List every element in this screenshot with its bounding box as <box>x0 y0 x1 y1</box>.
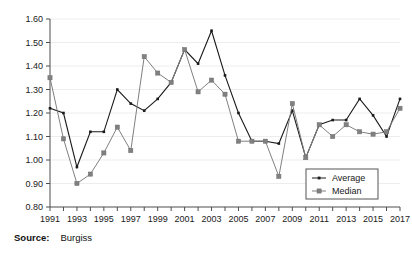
data-point <box>263 139 267 143</box>
data-point <box>278 142 281 145</box>
data-point <box>358 98 361 101</box>
x-tick-label: 2005 <box>228 214 248 224</box>
x-tick-label: 2015 <box>363 214 383 224</box>
data-point <box>223 92 227 96</box>
legend-label: Median <box>332 186 362 196</box>
data-point <box>398 106 402 110</box>
data-point <box>236 139 240 143</box>
x-tick-label: 2003 <box>202 214 222 224</box>
y-tick-label: 1.00 <box>25 155 43 165</box>
data-point <box>209 78 213 82</box>
x-tick-label: 1997 <box>121 214 141 224</box>
x-tick-label: 2017 <box>390 214 410 224</box>
data-point <box>197 62 200 65</box>
data-point <box>156 98 159 101</box>
data-point <box>129 149 133 153</box>
x-tick-label: 1991 <box>40 214 60 224</box>
x-tick-label: 1999 <box>148 214 168 224</box>
data-point <box>385 135 388 138</box>
data-point <box>345 119 348 122</box>
x-tick-label: 1993 <box>67 214 87 224</box>
y-tick-label: 1.30 <box>25 85 43 95</box>
data-point <box>210 29 213 32</box>
line-chart: 0.800.901.001.101.201.301.401.501.60 199… <box>0 0 412 258</box>
x-tick-label: 1995 <box>94 214 114 224</box>
data-point <box>384 130 388 134</box>
data-point <box>250 139 254 143</box>
data-point <box>116 88 119 91</box>
data-point <box>61 137 65 141</box>
data-point <box>290 102 294 106</box>
data-point <box>371 132 375 136</box>
data-point <box>277 174 281 178</box>
legend-label: Average <box>332 173 365 183</box>
data-point <box>331 134 335 138</box>
data-point <box>89 131 92 134</box>
x-tick-label: 2011 <box>310 214 329 224</box>
chart-figure: 0.800.901.001.101.201.301.401.501.60 199… <box>0 0 412 258</box>
x-tick-label: 2007 <box>255 214 275 224</box>
data-point <box>62 112 65 115</box>
data-point <box>169 80 173 84</box>
legend-marker-diamond-icon <box>318 177 321 180</box>
x-tick-label: 2013 <box>336 214 356 224</box>
data-point <box>103 131 106 134</box>
data-point <box>115 125 119 129</box>
source-line: Source:Burgiss <box>14 232 92 243</box>
data-point <box>358 130 362 134</box>
y-tick-label: 0.80 <box>25 202 43 212</box>
data-point <box>196 90 200 94</box>
data-point <box>49 107 52 110</box>
y-tick-label: 0.90 <box>25 179 43 189</box>
source-value: Burgiss <box>60 232 92 243</box>
y-tick-label: 1.10 <box>25 132 43 142</box>
y-tick-label: 1.20 <box>25 108 43 118</box>
x-tick-label: 2009 <box>282 214 302 224</box>
data-point <box>102 151 106 155</box>
y-tick-label: 1.40 <box>25 61 43 71</box>
x-tick-label: 2001 <box>175 214 195 224</box>
data-point <box>142 55 146 59</box>
data-point <box>156 71 160 75</box>
data-point <box>372 114 375 117</box>
data-point <box>143 109 146 112</box>
data-point <box>317 123 321 127</box>
data-point <box>129 102 132 105</box>
data-point <box>183 47 187 51</box>
data-point <box>76 166 79 169</box>
source-label: Source: <box>14 232 49 243</box>
data-point <box>88 172 92 176</box>
legend-marker-square-icon <box>317 189 321 193</box>
chart-legend: AverageMedian <box>306 169 378 199</box>
data-point <box>304 156 308 160</box>
data-point <box>48 76 52 80</box>
data-point <box>224 74 227 77</box>
data-point <box>75 181 79 185</box>
data-point <box>399 98 402 101</box>
y-tick-label: 1.60 <box>25 14 43 24</box>
data-point <box>331 119 334 122</box>
data-point <box>344 123 348 127</box>
data-point <box>237 112 240 115</box>
y-tick-label: 1.50 <box>25 38 43 48</box>
